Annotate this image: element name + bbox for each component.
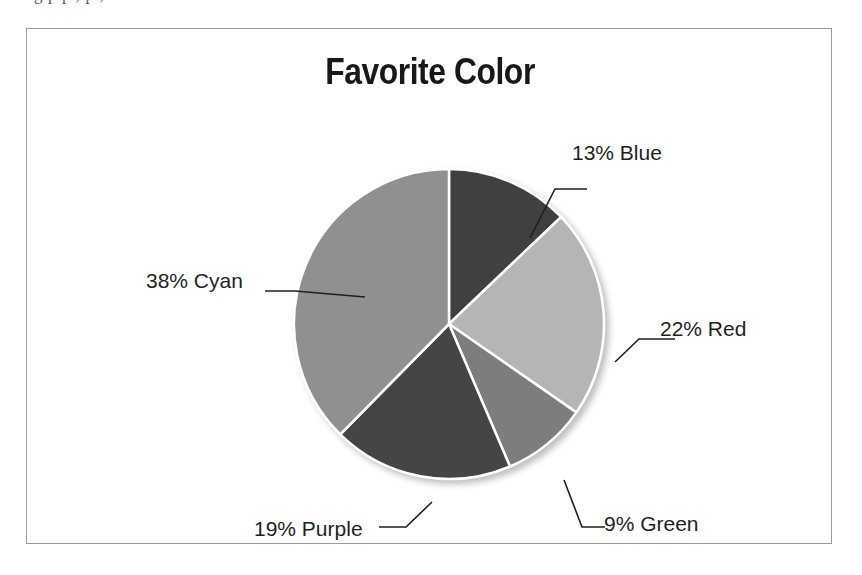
slice-label-red: 22% Red (660, 317, 746, 341)
slice-label-blue: 13% Blue (572, 141, 662, 165)
slice-label-green: 9% Green (604, 512, 699, 536)
chart-frame: Favorite Color 13% Blue 22% Red 9% Green… (26, 28, 832, 544)
leader-line-purple (379, 502, 432, 527)
cut-off-text-above-chart: g p p , p , (0, 0, 862, 16)
slice-label-cyan: 38% Cyan (146, 269, 243, 293)
leader-line-green (564, 480, 605, 527)
cut-off-text-line: g p p , p , (34, 0, 104, 5)
pie-slices-group (294, 169, 604, 479)
pie-chart-plot-area: 13% Blue 22% Red 9% Green 19% Purple 38%… (27, 29, 833, 545)
leader-line-red (615, 339, 675, 362)
slice-label-purple: 19% Purple (254, 517, 363, 541)
